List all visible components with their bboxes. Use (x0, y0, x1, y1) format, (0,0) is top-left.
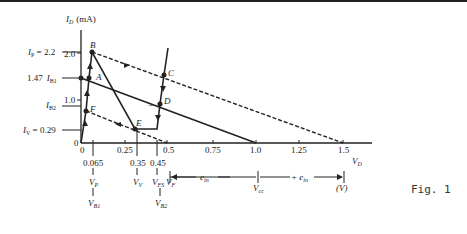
svg-text:1.0: 1.0 (250, 145, 262, 155)
minus-sign: − (148, 100, 153, 110)
axes (81, 30, 372, 143)
load-line-lower (86, 111, 167, 143)
unit-v-label: (V) (336, 183, 348, 193)
vb1-label: VB1 (88, 198, 100, 209)
svg-text:0: 0 (80, 145, 85, 155)
svg-text:0.25: 0.25 (117, 145, 133, 155)
svg-text:1.5: 1.5 (338, 145, 350, 155)
load-line-middle (81, 78, 256, 143)
vv-label: VV (133, 177, 144, 188)
ein-left-label: ein (200, 172, 209, 183)
x-axis-label: VD (352, 156, 363, 167)
vb2-label: VB2 (155, 198, 167, 209)
y-tick-1: 1.0 (64, 95, 76, 105)
mark-vv-value: 0.35 (130, 158, 146, 168)
point-f-label: F (89, 104, 96, 114)
ib2-label: IB2 (45, 100, 56, 111)
point-c-label: C (168, 68, 175, 78)
svg-text:0.75: 0.75 (205, 145, 221, 155)
figure-caption: Fig. 1 (411, 183, 451, 196)
vfs-label: VFS (152, 177, 164, 188)
point-e-label: E (135, 118, 142, 128)
y-tick-0: 0 (74, 138, 79, 148)
iv-label: IV = 0.29 (22, 125, 56, 136)
vp-label: VP (89, 177, 99, 188)
y-axis-label: ID(mA) (65, 14, 96, 25)
point-a-label: A (95, 72, 102, 82)
svg-text:0.5: 0.5 (163, 145, 175, 155)
point-b-label: B (90, 40, 96, 50)
direction-arrows (82, 63, 166, 127)
mark-vp-value: 0.065 (83, 158, 104, 168)
diode-curve (81, 48, 168, 143)
vf-label: VF (166, 177, 176, 188)
point-markers (79, 50, 167, 132)
vcc-label: Vcc (253, 183, 264, 194)
tunnel-diode-diagram: B A C D E F − ID(mA) 2.0 1.0 0 IP = 2.2 … (0, 0, 467, 234)
x-tick-labels: 0 0.25 0.5 0.75 1.0 1.25 1.5 (80, 145, 350, 155)
mark-vfs-value: 0.45 (150, 158, 166, 168)
ib1-label: 1.47IB1 (27, 73, 57, 84)
ip-label: IP = 2.2 (27, 47, 55, 58)
svg-text:1.25: 1.25 (291, 145, 307, 155)
input-swing (170, 171, 344, 183)
reference-lines (62, 52, 81, 130)
point-d-label: D (163, 96, 171, 106)
y-tick-2: 2.0 (64, 49, 76, 59)
ein-right-label: + ein (291, 172, 308, 183)
